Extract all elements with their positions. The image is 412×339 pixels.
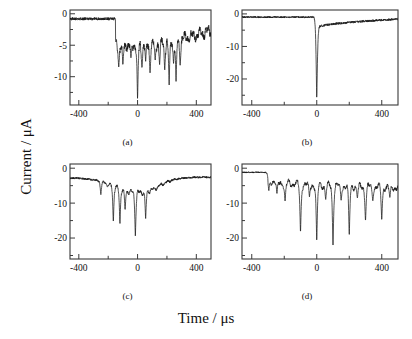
svg-text:-20: -20 [54,233,67,243]
svg-text:-400: -400 [70,109,88,119]
panel-d: -40004000-10-20 (d) [212,158,402,308]
svg-text:-10: -10 [54,72,67,82]
svg-text:400: 400 [375,263,390,273]
panel-d-plot: -40004000-10-20 [212,158,402,293]
svg-text:400: 400 [375,109,390,119]
panel-b-plot: -40004000-10-20 [212,4,402,139]
svg-text:-10: -10 [226,42,239,52]
svg-text:-20: -20 [226,233,239,243]
y-axis-label: Current / μA [18,87,35,227]
svg-text:0: 0 [135,109,140,119]
svg-text:0: 0 [314,263,319,273]
svg-text:-10: -10 [226,199,239,209]
panel-c: -40004000-10-20 (c) [40,158,215,308]
panel-b-caption: (b) [212,137,402,147]
svg-text:-400: -400 [70,263,88,273]
svg-text:400: 400 [189,109,204,119]
svg-text:0: 0 [62,9,67,19]
svg-text:0: 0 [314,109,319,119]
svg-text:-10: -10 [54,199,67,209]
figure-canvas: Current / μA Time / μs -40004000-5-10 (a… [0,0,412,339]
panel-a-caption: (a) [40,137,215,147]
panel-d-caption: (d) [212,291,402,301]
panel-c-caption: (c) [40,291,215,301]
svg-text:-20: -20 [226,74,239,84]
svg-text:-400: -400 [243,263,261,273]
x-axis-label: Time / μs [0,310,412,327]
svg-text:0: 0 [234,9,239,19]
panel-a: -40004000-5-10 (a) [40,4,215,154]
panel-b: -40004000-10-20 (b) [212,4,402,154]
svg-text:400: 400 [189,263,204,273]
svg-text:-400: -400 [243,109,261,119]
panel-c-plot: -40004000-10-20 [40,158,215,293]
svg-text:0: 0 [135,263,140,273]
panel-a-plot: -40004000-5-10 [40,4,215,139]
svg-text:0: 0 [234,164,239,174]
svg-text:-5: -5 [59,41,67,51]
svg-text:0: 0 [62,164,67,174]
